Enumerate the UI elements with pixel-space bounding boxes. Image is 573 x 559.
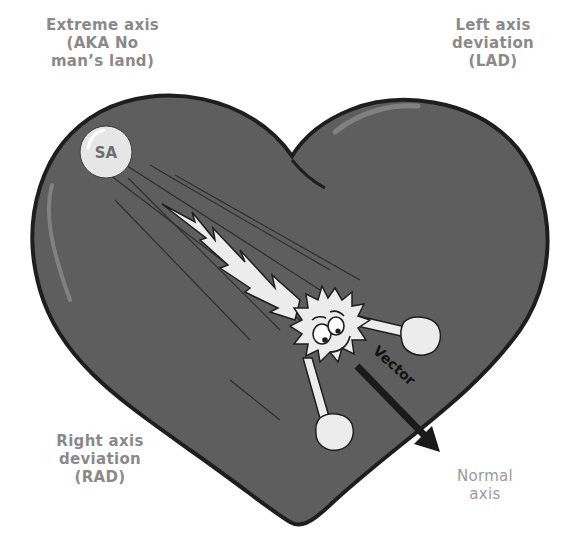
extreme-axis-line-1: Extreme axis — [10, 16, 195, 34]
rad-line-3: (RAD) — [40, 468, 160, 486]
extreme-axis-line-2: (AKA No — [10, 34, 195, 52]
rad-line-1: Right axis — [40, 432, 160, 450]
normal-axis-label: Normal axis — [440, 467, 530, 503]
normal-axis-line-2: axis — [440, 485, 530, 503]
lad-line-3: (LAD) — [433, 52, 553, 70]
right-axis-deviation-label: Right axis deviation (RAD) — [40, 432, 160, 486]
rad-line-2: deviation — [40, 450, 160, 468]
sa-node-label: SA — [95, 144, 118, 162]
extreme-axis-line-3: man’s land) — [10, 52, 195, 70]
normal-axis-line-1: Normal — [440, 467, 530, 485]
lad-line-1: Left axis — [433, 16, 553, 34]
lad-line-2: deviation — [433, 34, 553, 52]
left-axis-deviation-label: Left axis deviation (LAD) — [433, 16, 553, 70]
sa-node: SA — [80, 126, 132, 178]
extreme-axis-label: Extreme axis (AKA No man’s land) — [10, 16, 195, 70]
